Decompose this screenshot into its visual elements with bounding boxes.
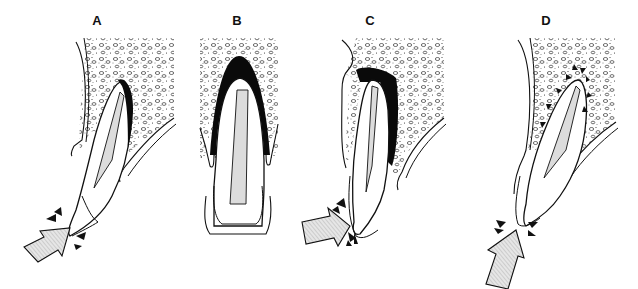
illustration-canvas — [0, 0, 638, 289]
panel-c — [302, 38, 446, 246]
panel-a — [24, 38, 176, 262]
impact-arrow-c — [302, 208, 350, 246]
impact-arrow-d — [486, 230, 524, 289]
dental-trauma-figure: A B C D — [0, 0, 638, 289]
panel-b — [200, 38, 278, 234]
impact-arrow-a — [24, 228, 70, 262]
panel-d — [486, 38, 618, 289]
